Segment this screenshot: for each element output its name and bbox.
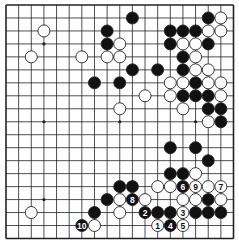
white-stone — [202, 116, 214, 128]
black-stone: 2 — [139, 207, 151, 219]
white-stone — [190, 194, 202, 206]
white-stone: 7 — [215, 181, 227, 193]
black-stone — [164, 38, 176, 50]
black-stone — [126, 12, 138, 24]
white-stone — [202, 77, 214, 89]
move-number: 6 — [181, 182, 186, 192]
black-stone — [101, 38, 113, 50]
move-number: 1 — [155, 221, 160, 231]
black-stone — [190, 90, 202, 102]
white-stone — [114, 103, 126, 115]
star-point — [118, 120, 121, 123]
black-stone — [215, 116, 227, 128]
black-stone — [190, 77, 202, 89]
black-stone: 4 — [164, 220, 176, 232]
black-stone — [164, 168, 176, 180]
white-stone: 9 — [190, 181, 202, 193]
black-stone — [88, 207, 100, 219]
black-stone — [202, 207, 214, 219]
black-stone — [202, 90, 214, 102]
white-stone — [139, 90, 151, 102]
go-board: 12345678910 — [0, 0, 239, 247]
black-stone — [164, 207, 176, 219]
white-stone — [164, 77, 176, 89]
white-stone — [190, 38, 202, 50]
white-stone — [215, 25, 227, 37]
move-number: 10 — [77, 221, 87, 231]
white-stone: 3 — [177, 207, 189, 219]
white-stone — [177, 103, 189, 115]
star-point — [42, 42, 45, 45]
black-stone — [177, 168, 189, 180]
white-stone — [177, 77, 189, 89]
white-stone — [215, 90, 227, 102]
white-stone — [114, 194, 126, 206]
black-stone — [152, 64, 164, 76]
white-stone — [164, 181, 176, 193]
move-number: 7 — [218, 182, 223, 192]
black-stone — [190, 142, 202, 154]
black-stone — [177, 25, 189, 37]
move-number: 2 — [143, 208, 148, 218]
white-stone — [190, 168, 202, 180]
black-stone — [202, 155, 214, 167]
white-stone — [114, 38, 126, 50]
white-stone — [38, 25, 50, 37]
black-stone — [88, 77, 100, 89]
star-point — [42, 198, 45, 201]
white-stone — [25, 207, 37, 219]
black-stone — [202, 12, 214, 24]
white-stone — [164, 90, 176, 102]
white-stone — [25, 51, 37, 63]
black-stone: 10 — [76, 220, 88, 232]
black-stone — [101, 194, 113, 206]
white-stone — [88, 220, 100, 232]
white-stone — [215, 194, 227, 206]
white-stone — [114, 207, 126, 219]
black-stone — [152, 207, 164, 219]
white-stone — [76, 51, 88, 63]
star-point — [194, 120, 197, 123]
black-stone: 6 — [177, 181, 189, 193]
black-stone — [126, 181, 138, 193]
white-stone — [114, 51, 126, 63]
move-number: 5 — [181, 221, 186, 231]
black-stone: 8 — [126, 194, 138, 206]
black-stone — [177, 90, 189, 102]
white-stone — [190, 64, 202, 76]
white-stone — [177, 194, 189, 206]
white-stone — [139, 194, 151, 206]
move-number: 8 — [130, 195, 135, 205]
black-stone — [202, 38, 214, 50]
white-stone — [202, 181, 214, 193]
black-stone — [101, 25, 113, 37]
black-stone — [177, 64, 189, 76]
black-stone — [202, 103, 214, 115]
black-stone — [190, 25, 202, 37]
white-stone — [202, 64, 214, 76]
black-stone — [215, 103, 227, 115]
black-stone — [126, 64, 138, 76]
black-stone — [190, 207, 202, 219]
white-stone — [101, 51, 113, 63]
black-stone — [114, 181, 126, 193]
move-number: 4 — [168, 221, 173, 231]
white-stone: 5 — [177, 220, 189, 232]
black-stone — [215, 207, 227, 219]
black-stone — [164, 25, 176, 37]
black-stone — [164, 142, 176, 154]
black-stone — [114, 77, 126, 89]
white-stone — [202, 25, 214, 37]
white-stone — [152, 181, 164, 193]
white-stone — [190, 51, 202, 63]
move-number: 3 — [181, 208, 186, 218]
move-number: 9 — [193, 182, 198, 192]
star-point — [42, 120, 45, 123]
white-stone — [215, 77, 227, 89]
white-stone — [215, 12, 227, 24]
white-stone — [177, 38, 189, 50]
white-stone: 1 — [152, 220, 164, 232]
black-stone — [177, 51, 189, 63]
black-stone — [202, 194, 214, 206]
